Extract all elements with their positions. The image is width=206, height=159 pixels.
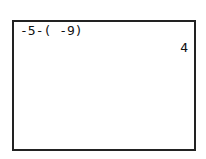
result-line: 4 bbox=[180, 41, 188, 55]
calculator-screen: -5-( -9) 4 bbox=[12, 20, 196, 151]
expression-line: -5-( -9) bbox=[20, 24, 83, 38]
